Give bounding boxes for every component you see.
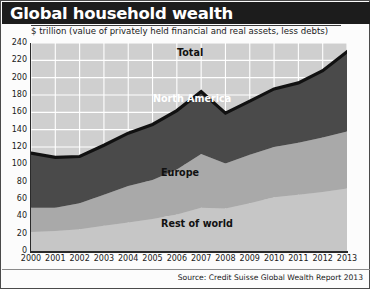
y-axis-tick-label: 80: [3, 177, 27, 186]
x-axis-tick-label: 2007: [188, 254, 214, 263]
y-axis-labels: 020406080100120140160180200220240: [1, 1, 27, 289]
x-axis-tick-label: 2006: [164, 254, 190, 263]
y-axis-tick-label: 100: [3, 159, 27, 168]
x-axis-tick-label: 2001: [42, 254, 68, 263]
x-axis-tick-label: 2009: [237, 254, 263, 263]
y-axis-tick-label: 180: [3, 90, 27, 99]
x-axis-tick-label: 2000: [18, 254, 44, 263]
y-axis-tick-label: 120: [3, 142, 27, 151]
y-axis-tick-label: 200: [3, 73, 27, 82]
y-axis-tick-label: 40: [3, 211, 27, 220]
x-axis-tick-label: 2010: [261, 254, 287, 263]
footer-rule: [2, 269, 370, 270]
x-axis-tick-label: 2003: [91, 254, 117, 263]
series-label-north-america: North America: [153, 93, 231, 104]
series-label-rest-of-world: Rest of world: [161, 218, 233, 229]
x-axis-tick-label: 2002: [67, 254, 93, 263]
y-axis-tick-label: 160: [3, 107, 27, 116]
y-axis-tick-label: 60: [3, 194, 27, 203]
y-axis-tick-label: 20: [3, 229, 27, 238]
title-bar: Global household wealth: [2, 2, 370, 24]
x-axis-line: [30, 251, 348, 253]
x-axis-tick-label: 2008: [212, 254, 238, 263]
y-axis-tick-label: 240: [3, 38, 27, 47]
x-axis-tick-label: 2004: [115, 254, 141, 263]
x-axis-tick-label: 2013: [334, 254, 360, 263]
chart-subtitle: $ trillion (value of privately held fina…: [31, 26, 328, 36]
y-axis-tick-label: 220: [3, 55, 27, 64]
series-label-total: Total: [177, 47, 203, 58]
x-axis-tick-label: 2012: [310, 254, 336, 263]
page-title: Global household wealth: [10, 4, 233, 23]
x-axis-tick-label: 2011: [285, 254, 311, 263]
y-axis-tick-label: 140: [3, 125, 27, 134]
x-axis-tick-label: 2005: [140, 254, 166, 263]
y-axis-line: [30, 43, 31, 252]
series-label-europe: Europe: [161, 167, 199, 178]
chart-figure: Global household wealth $ trillion (valu…: [0, 0, 370, 289]
source-note: Source: Credit Suisse Global Wealth Repo…: [178, 273, 363, 282]
